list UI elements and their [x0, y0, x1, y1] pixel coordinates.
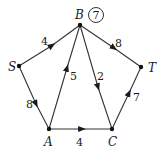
edge-S-A [19, 66, 49, 129]
node-T [139, 65, 143, 69]
node-label-C: C [108, 135, 117, 149]
node-S [17, 64, 21, 68]
node-C [110, 127, 114, 131]
node-label-T: T [148, 61, 157, 75]
weight-A-B: 5 [70, 70, 77, 83]
graph-svg: S B T A C 7 4 8 5 2 8 4 7 [0, 0, 164, 152]
graph-diagram: S B T A C 7 4 8 5 2 8 4 7 [0, 0, 164, 152]
node-B-annotation: 7 [93, 9, 100, 22]
node-B [78, 23, 82, 27]
weight-B-C: 2 [97, 70, 104, 83]
edge-B-T [80, 25, 141, 67]
node-label-B: B [74, 8, 84, 22]
edge-B-C [80, 25, 112, 129]
node-label-S: S [8, 60, 16, 74]
edge-S-B [19, 25, 80, 66]
weight-S-A: 8 [26, 98, 33, 111]
weight-B-T: 8 [115, 37, 122, 50]
node-label-A: A [43, 135, 53, 149]
node-A [47, 127, 51, 131]
weight-S-B: 4 [41, 35, 48, 48]
weight-C-T: 7 [133, 91, 140, 104]
weight-A-C: 4 [76, 136, 83, 149]
